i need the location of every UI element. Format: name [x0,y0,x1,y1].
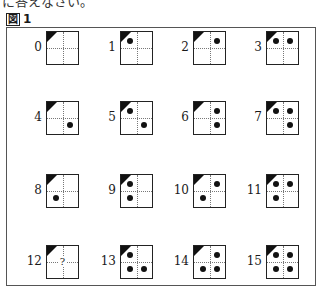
dotted-divider-horizontal [121,262,152,263]
pattern-box [120,174,153,208]
dot-icon-tl [127,38,133,44]
dot-icon-tl [127,108,133,114]
pattern-box [46,174,79,208]
dot-icon-bl [273,266,279,272]
dot-icon-br [67,122,73,128]
cell-number: 5 [94,110,116,124]
dot-icon-tr [287,252,293,258]
pattern-box [193,174,226,208]
corner-triangle-icon [194,246,204,256]
corner-triangle-icon [47,246,57,256]
cell-number: 10 [167,183,189,197]
figure-label-number: 1 [23,12,31,26]
cell-number: 7 [240,110,262,124]
dot-icon-tr [214,252,220,258]
dot-icon-tr [214,108,220,114]
cell-number: 12 [20,254,42,268]
corner-triangle-icon [194,175,204,185]
corner-triangle-icon [194,102,204,112]
dotted-divider-horizontal [267,48,298,49]
cell-number: 6 [167,110,189,124]
dot-icon-br [214,122,220,128]
dot-icon-bl [127,195,133,201]
dot-icon-bl [127,266,133,272]
pattern-box [46,31,79,65]
dotted-divider-horizontal [194,191,225,192]
dotted-divider-horizontal [267,118,298,119]
dot-icon-tl [273,252,279,258]
pattern-box [266,245,299,279]
cell-number: 0 [20,40,42,54]
dot-icon-tl [273,108,279,114]
dotted-divider-horizontal [121,191,152,192]
dot-icon-bl [53,195,59,201]
dotted-divider-horizontal [47,191,78,192]
cell-number: 13 [94,254,116,268]
figure-label: 図 1 [6,12,31,26]
corner-triangle-icon [47,102,57,112]
cell-number: 11 [240,183,262,197]
pattern-box [120,245,153,279]
pattern-box [266,101,299,135]
dot-icon-tr [214,38,220,44]
cell-number: 8 [20,183,42,197]
question-mark: ? [59,256,66,267]
cell-number: 2 [167,40,189,54]
cell-number: 9 [94,183,116,197]
pattern-box [120,101,153,135]
dot-icon-bl [200,266,206,272]
cell-number: 3 [240,40,262,54]
pattern-box [193,245,226,279]
dot-icon-tl [273,38,279,44]
dot-icon-tl [273,181,279,187]
dot-icon-br [141,266,147,272]
pattern-box [266,31,299,65]
dotted-divider-horizontal [194,48,225,49]
pattern-box [193,31,226,65]
pattern-box [193,101,226,135]
dotted-divider-horizontal [47,48,78,49]
dotted-divider-horizontal [194,118,225,119]
dot-icon-bl [273,195,279,201]
dot-icon-tr [214,181,220,187]
cell-number: 14 [167,254,189,268]
dotted-divider-horizontal [121,48,152,49]
dotted-divider-horizontal [267,191,298,192]
dot-icon-tr [287,181,293,187]
dot-icon-tr [287,38,293,44]
dot-icon-tl [127,181,133,187]
cell-number: 4 [20,110,42,124]
dot-icon-br [287,266,293,272]
dot-icon-tr [287,108,293,114]
figure-label-kanji: 図 [6,13,20,26]
question-text-fragment: に答えなさい。 [2,0,93,10]
dot-icon-bl [200,195,206,201]
dotted-divider-horizontal [47,118,78,119]
dot-icon-br [214,266,220,272]
corner-triangle-icon [47,175,57,185]
pattern-box: ? [46,245,79,279]
dot-icon-br [287,122,293,128]
dot-icon-br [141,122,147,128]
dotted-divider-horizontal [194,262,225,263]
corner-triangle-icon [194,32,204,42]
pattern-box [266,174,299,208]
dot-icon-tl [127,252,133,258]
pattern-box [120,31,153,65]
corner-triangle-icon [47,32,57,42]
dotted-divider-horizontal [121,118,152,119]
cell-number: 1 [94,40,116,54]
pattern-box [46,101,79,135]
unknown-mark: ? [47,256,78,267]
cell-number: 15 [240,254,262,268]
dotted-divider-horizontal [267,262,298,263]
